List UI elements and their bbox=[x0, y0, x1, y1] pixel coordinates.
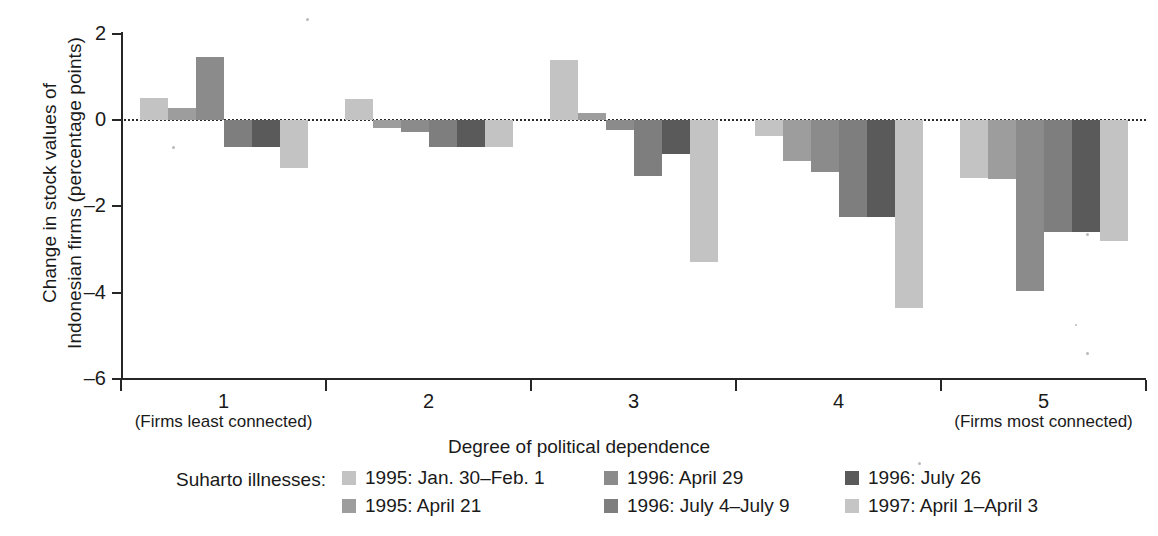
bar bbox=[345, 99, 373, 120]
bar bbox=[1016, 120, 1044, 291]
x-tick-label: 5 bbox=[1038, 390, 1049, 412]
bar bbox=[988, 120, 1016, 179]
chart-root: Change in stock values of Indonesian fir… bbox=[0, 0, 1158, 536]
bar bbox=[839, 120, 867, 217]
legend-swatch-icon bbox=[604, 471, 618, 485]
legend-item-label: 1996: July 26 bbox=[868, 467, 981, 489]
bar bbox=[224, 120, 252, 147]
legend-item-label: 1995: April 21 bbox=[365, 495, 481, 517]
bar bbox=[168, 108, 196, 120]
bar bbox=[457, 120, 485, 147]
bar bbox=[1072, 120, 1100, 232]
bar bbox=[690, 120, 718, 262]
legend-swatch-icon bbox=[342, 471, 356, 485]
legend-item[interactable]: 1995: April 21 bbox=[342, 495, 481, 517]
y-axis-title: Change in stock values of Indonesian fir… bbox=[37, 3, 87, 383]
x-tick-label: 4 bbox=[833, 390, 844, 412]
legend-item[interactable]: 1997: April 1–April 3 bbox=[845, 495, 1038, 517]
y-tick bbox=[112, 119, 123, 121]
bar bbox=[867, 120, 895, 217]
y-tick bbox=[112, 292, 123, 294]
x-tick-sublabel: (Firms most connected) bbox=[954, 412, 1133, 431]
bar bbox=[196, 57, 224, 120]
legend: Suharto illnesses: 1995: Jan. 30–Feb. 11… bbox=[0, 461, 1158, 531]
bar bbox=[755, 120, 783, 136]
y-tick bbox=[112, 205, 123, 207]
bar bbox=[606, 120, 634, 130]
y-tick-label: –4 bbox=[0, 282, 106, 302]
x-tick-label: 3 bbox=[628, 390, 639, 412]
x-tick bbox=[1145, 380, 1147, 391]
bar bbox=[429, 120, 457, 147]
x-tick bbox=[120, 380, 122, 391]
legend-item-label: 1995: Jan. 30–Feb. 1 bbox=[365, 467, 545, 489]
bar bbox=[662, 120, 690, 154]
x-tick-sublabel: (Firms least connected) bbox=[135, 412, 313, 431]
bar bbox=[140, 98, 168, 120]
x-tick-label: 1 bbox=[218, 390, 229, 412]
bar bbox=[578, 113, 606, 120]
bar bbox=[895, 120, 923, 308]
y-tick-label: –2 bbox=[0, 195, 106, 215]
legend-swatch-icon bbox=[342, 499, 356, 513]
x-tick bbox=[940, 380, 942, 391]
legend-item-label: 1996: July 4–July 9 bbox=[627, 495, 790, 517]
bar bbox=[401, 120, 429, 132]
x-tick bbox=[530, 380, 532, 391]
bar bbox=[1100, 120, 1128, 241]
x-tick bbox=[325, 380, 327, 391]
legend-swatch-icon bbox=[845, 471, 859, 485]
y-tick-label: 2 bbox=[0, 23, 106, 43]
x-axis-title: Degree of political dependence bbox=[0, 436, 1158, 458]
legend-swatch-icon bbox=[604, 499, 618, 513]
bar bbox=[550, 60, 578, 120]
bar bbox=[280, 120, 308, 168]
y-tick-label: 0 bbox=[0, 109, 106, 129]
bar bbox=[485, 120, 513, 147]
bar bbox=[783, 120, 811, 161]
legend-item[interactable]: 1996: April 29 bbox=[604, 467, 743, 489]
legend-item-label: 1997: April 1–April 3 bbox=[868, 495, 1038, 517]
bar bbox=[373, 120, 401, 128]
x-tick bbox=[735, 380, 737, 391]
bar bbox=[811, 120, 839, 172]
legend-item[interactable]: 1996: July 4–July 9 bbox=[604, 495, 790, 517]
legend-item[interactable]: 1995: Jan. 30–Feb. 1 bbox=[342, 467, 545, 489]
y-tick-label: –6 bbox=[0, 368, 106, 388]
x-axis-line bbox=[121, 378, 1146, 380]
legend-item[interactable]: 1996: July 26 bbox=[845, 467, 981, 489]
legend-swatch-icon bbox=[845, 499, 859, 513]
legend-item-label: 1996: April 29 bbox=[627, 467, 743, 489]
y-tick bbox=[112, 33, 123, 35]
bar bbox=[960, 120, 988, 178]
x-tick-label: 2 bbox=[423, 390, 434, 412]
bar bbox=[252, 120, 280, 147]
legend-title: Suharto illnesses: bbox=[176, 469, 326, 491]
bar bbox=[1044, 120, 1072, 232]
bar bbox=[634, 120, 662, 176]
